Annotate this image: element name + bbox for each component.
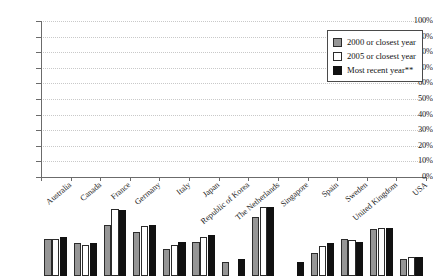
- bar-group: [163, 21, 186, 276]
- x-axis-tick-mark: [337, 177, 338, 181]
- bar-group: [104, 21, 127, 276]
- bar: [192, 242, 199, 276]
- bar: [400, 259, 407, 276]
- x-axis-tick-mark: [159, 177, 160, 181]
- bar: [327, 243, 334, 276]
- bar: [171, 245, 178, 276]
- bar-group: [192, 21, 215, 276]
- x-axis-tick-mark: [396, 177, 397, 181]
- bar: [370, 229, 377, 276]
- bar: [252, 217, 259, 276]
- bar: [82, 245, 89, 276]
- legend-swatch-icon: [333, 52, 342, 61]
- bar: [208, 235, 215, 276]
- y-axis-tick-mark: [36, 99, 41, 100]
- y-axis-tick-mark: [36, 68, 41, 69]
- bar: [133, 232, 140, 276]
- bar: [386, 228, 393, 276]
- x-axis-tick-mark: [219, 177, 220, 181]
- y-axis-tick-mark: [36, 130, 41, 131]
- bar: [104, 225, 111, 276]
- y-axis-tick-mark: [36, 146, 41, 147]
- bar-group: [74, 21, 97, 276]
- bar: [260, 207, 267, 276]
- bar: [378, 228, 385, 276]
- bar: [311, 253, 318, 276]
- bar: [119, 210, 126, 276]
- bar: [178, 242, 185, 276]
- bar: [341, 239, 348, 276]
- legend-item[interactable]: 2000 or closest year: [333, 35, 416, 49]
- legend-swatch-icon: [333, 66, 342, 75]
- bar-group: [44, 21, 67, 276]
- bar: [222, 262, 229, 276]
- x-axis-tick-mark: [189, 177, 190, 181]
- bar: [90, 243, 97, 276]
- bar: [267, 207, 274, 276]
- bar: [408, 257, 415, 276]
- bar-group: [222, 21, 245, 276]
- bar: [44, 239, 51, 276]
- x-axis-tick-mark: [248, 177, 249, 181]
- y-axis-tick-mark: [36, 21, 41, 22]
- x-axis-tick-mark: [426, 177, 427, 181]
- bar: [141, 226, 148, 276]
- bar: [415, 257, 422, 276]
- legend-label: 2005 or closest year: [347, 52, 416, 61]
- bar: [163, 249, 170, 276]
- bar: [52, 239, 59, 276]
- bar: [238, 259, 245, 276]
- x-axis-tick-mark: [367, 177, 368, 181]
- bar: [297, 262, 304, 276]
- x-axis-tick-mark: [130, 177, 131, 181]
- y-axis-line: [41, 21, 42, 178]
- x-axis-tick-mark: [100, 177, 101, 181]
- legend-swatch-icon: [333, 38, 342, 47]
- x-axis-tick-mark: [41, 177, 42, 181]
- bar: [319, 246, 326, 276]
- legend-item[interactable]: Most recent year**: [333, 63, 416, 77]
- bar-group: [133, 21, 156, 276]
- bar-group: [252, 21, 275, 276]
- y-axis-tick-mark: [36, 83, 41, 84]
- bar-group: [281, 21, 304, 276]
- bar: [111, 209, 118, 276]
- bar: [200, 237, 207, 276]
- bar: [348, 240, 355, 276]
- y-axis-tick-mark: [36, 115, 41, 116]
- legend-label: 2000 or closest year: [347, 38, 416, 47]
- legend-item[interactable]: 2005 or closest year: [333, 49, 416, 63]
- bar: [60, 237, 67, 276]
- y-axis-tick-mark: [36, 52, 41, 53]
- x-axis-tick-mark: [71, 177, 72, 181]
- bar: [74, 243, 81, 276]
- x-axis-tick-mark: [278, 177, 279, 181]
- x-axis-tick-mark: [308, 177, 309, 181]
- y-axis-tick-mark: [36, 161, 41, 162]
- bar: [149, 225, 156, 276]
- bar: [356, 242, 363, 276]
- legend-label: Most recent year**: [347, 66, 413, 75]
- y-axis-tick-mark: [36, 37, 41, 38]
- chart-legend: 2000 or closest year2005 or closest year…: [327, 30, 423, 82]
